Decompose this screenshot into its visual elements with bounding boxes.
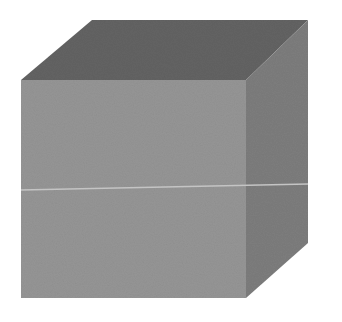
cube-drawing [0, 0, 342, 322]
cube-figure [0, 0, 342, 322]
